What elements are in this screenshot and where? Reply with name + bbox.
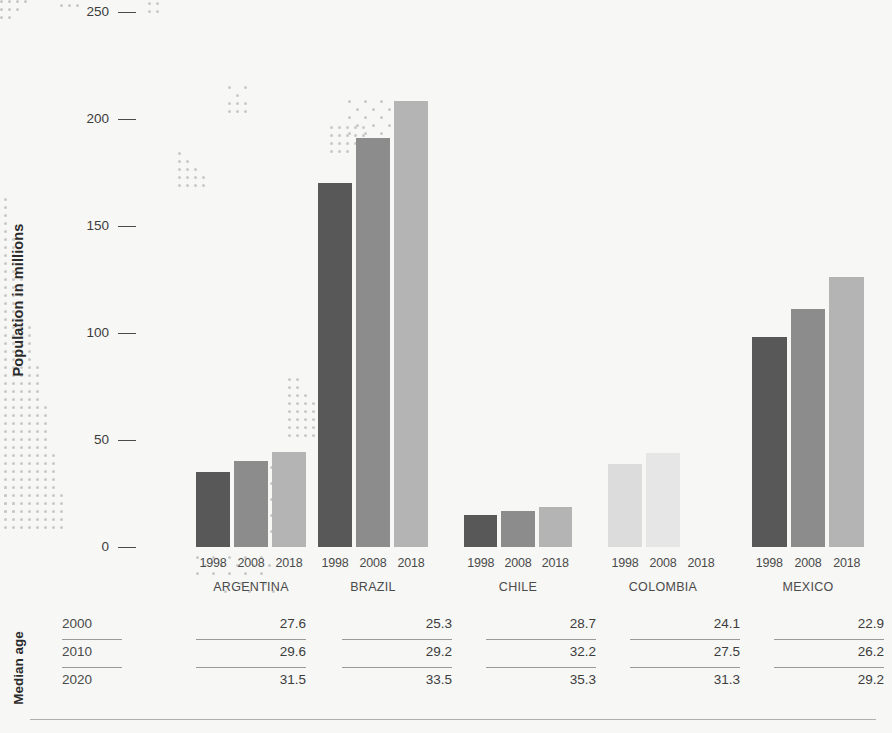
bar-brazil-2008[interactable] <box>356 138 390 547</box>
median-age-row-label: 2000 <box>62 616 92 631</box>
country-label-brazil: BRAZIL <box>318 580 428 594</box>
y-axis-tick-50: 50 <box>52 432 136 448</box>
median-age-cell: 26.2 <box>774 644 884 659</box>
year-label-2018: 2018 <box>539 556 572 570</box>
bar-mexico-2018[interactable] <box>829 277 864 547</box>
bar-set <box>196 12 306 547</box>
y-axis-tick-200: 200 <box>52 111 136 127</box>
median-age-cell: 22.9 <box>774 616 884 631</box>
median-age-cell: 29.2 <box>342 644 452 659</box>
median-age-row-2020: 202031.533.535.331.329.2 <box>0 668 892 696</box>
year-label-1998: 1998 <box>464 556 497 570</box>
median-age-cell: 28.7 <box>486 616 596 631</box>
year-label-2008: 2008 <box>646 556 680 570</box>
bar-group-argentina: 199820082018ARGENTINA <box>196 0 306 600</box>
year-label-2018: 2018 <box>829 556 864 570</box>
bar-argentina-2018[interactable] <box>272 452 306 547</box>
median-age-cell: 33.5 <box>342 672 452 687</box>
median-age-table: Median age 200027.625.328.724.122.920102… <box>0 612 892 733</box>
year-label-2018: 2018 <box>272 556 306 570</box>
bar-argentina-1998[interactable] <box>196 472 230 547</box>
year-label-row: 199820082018 <box>464 556 572 570</box>
year-label-row: 199820082018 <box>752 556 864 570</box>
y-axis-tick-label: 150 <box>63 218 109 233</box>
year-label-2018: 2018 <box>684 556 718 570</box>
y-axis-tick-0: 0 <box>52 539 136 555</box>
bar-group-mexico: 199820082018MEXICO <box>752 0 864 600</box>
year-label-2008: 2008 <box>356 556 390 570</box>
year-label-row: 199820082018 <box>318 556 428 570</box>
y-axis-tick-mark <box>118 547 136 548</box>
year-label-row: 199820082018 <box>608 556 718 570</box>
year-label-1998: 1998 <box>196 556 230 570</box>
y-axis-tick-mark <box>118 226 136 227</box>
year-label-row: 199820082018 <box>196 556 306 570</box>
bar-set <box>318 12 428 547</box>
y-axis-tick-label: 100 <box>63 325 109 340</box>
country-label-argentina: ARGENTINA <box>196 580 306 594</box>
country-label-mexico: MEXICO <box>752 580 864 594</box>
y-axis-tick-250: 250 <box>52 4 136 20</box>
y-axis-tick-100: 100 <box>52 325 136 341</box>
median-age-cell: 29.2 <box>774 672 884 687</box>
median-age-row-2010: 201029.629.232.227.526.2 <box>0 640 892 668</box>
y-axis-tick-150: 150 <box>52 218 136 234</box>
median-age-cell: 25.3 <box>342 616 452 631</box>
population-median-age-figure: Population in millions 250200150100500 1… <box>0 0 892 733</box>
bar-brazil-2018[interactable] <box>394 101 428 547</box>
y-axis-tick-label: 50 <box>63 432 109 447</box>
median-age-cell: 27.5 <box>630 644 740 659</box>
bar-set <box>608 12 718 547</box>
year-label-1998: 1998 <box>752 556 787 570</box>
median-age-cell: 31.3 <box>630 672 740 687</box>
bar-chile-2008[interactable] <box>501 511 534 547</box>
bar-brazil-1998[interactable] <box>318 183 352 547</box>
bar-chile-2018[interactable] <box>539 507 572 547</box>
bar-chile-1998[interactable] <box>464 515 497 547</box>
median-age-cell: 24.1 <box>630 616 740 631</box>
median-age-cell: 35.3 <box>486 672 596 687</box>
median-age-row-label: 2020 <box>62 672 92 687</box>
bar-mexico-2008[interactable] <box>791 309 826 547</box>
y-axis-title: Population in millions <box>10 224 26 377</box>
median-age-cell: 31.5 <box>196 672 306 687</box>
footer-rule <box>30 719 876 720</box>
bar-group-chile: 199820082018CHILE <box>464 0 572 600</box>
bar-colombia-2008[interactable] <box>646 453 680 547</box>
country-label-colombia: COLOMBIA <box>608 580 718 594</box>
y-axis-tick-label: 0 <box>63 539 109 554</box>
median-age-cell: 27.6 <box>196 616 306 631</box>
bar-set <box>752 12 864 547</box>
year-label-2018: 2018 <box>394 556 428 570</box>
bar-set <box>464 12 572 547</box>
year-label-2008: 2008 <box>234 556 268 570</box>
year-label-2008: 2008 <box>501 556 534 570</box>
y-axis-tick-mark <box>118 333 136 334</box>
y-axis-tick-mark <box>118 440 136 441</box>
bar-colombia-1998[interactable] <box>608 464 642 547</box>
y-axis-tick-mark <box>118 12 136 13</box>
bar-mexico-1998[interactable] <box>752 337 787 547</box>
median-age-row-2000: 200027.625.328.724.122.9 <box>0 612 892 640</box>
bar-argentina-2008[interactable] <box>234 461 268 547</box>
year-label-2008: 2008 <box>791 556 826 570</box>
y-axis-tick-mark <box>118 119 136 120</box>
median-age-cell: 29.6 <box>196 644 306 659</box>
y-axis-tick-label: 250 <box>63 4 109 19</box>
bar-group-brazil: 199820082018BRAZIL <box>318 0 428 600</box>
bar-chart-plot-area: Population in millions 250200150100500 1… <box>0 0 892 600</box>
y-axis-tick-label: 200 <box>63 111 109 126</box>
median-age-cell: 32.2 <box>486 644 596 659</box>
year-label-1998: 1998 <box>608 556 642 570</box>
median-age-row-label: 2010 <box>62 644 92 659</box>
country-label-chile: CHILE <box>464 580 572 594</box>
bar-group-colombia: 199820082018COLOMBIA <box>608 0 718 600</box>
year-label-1998: 1998 <box>318 556 352 570</box>
